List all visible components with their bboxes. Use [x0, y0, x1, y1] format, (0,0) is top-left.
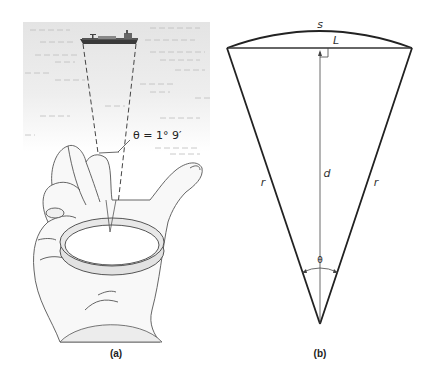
angle-label: θ = 1° 9′: [133, 129, 182, 142]
label-s: s: [317, 18, 323, 31]
ring-disc: [60, 218, 164, 275]
panel-b: s L d r r θ (b): [227, 18, 412, 359]
label-d: d: [324, 167, 332, 180]
radius-left: [227, 48, 320, 324]
label-r-right: r: [374, 176, 380, 189]
label-theta: θ: [317, 255, 323, 265]
caption-b: (b): [314, 348, 327, 359]
arrowhead-up: [318, 50, 322, 56]
label-l: L: [333, 34, 339, 47]
caption-a: (a): [110, 348, 122, 359]
arc-s: [227, 31, 412, 48]
panel-a: θ = 1° 9′ (a): [23, 22, 210, 359]
figure: θ = 1° 9′ (a) s L d r r θ (b): [0, 0, 432, 382]
radius-right: [320, 48, 412, 324]
label-r-left: r: [261, 176, 267, 189]
